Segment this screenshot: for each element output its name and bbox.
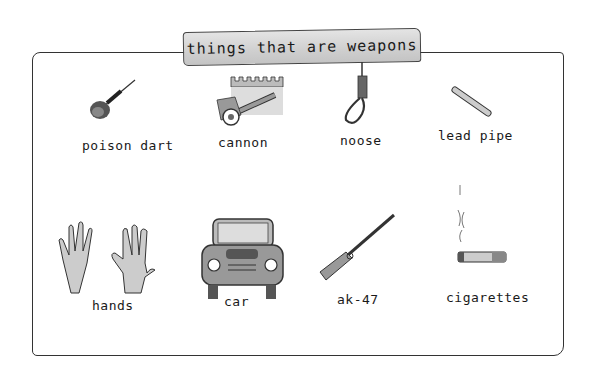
- car-icon: [200, 215, 285, 305]
- label-cannon: cannon: [218, 135, 268, 150]
- cigarette-icon: [450, 180, 512, 270]
- label-poison-dart: poison dart: [82, 138, 174, 153]
- title: things that are weapons: [187, 36, 418, 58]
- label-cigarettes: cigarettes: [446, 290, 529, 305]
- lead-pipe-icon: [450, 85, 495, 120]
- label-hands: hands: [92, 298, 134, 313]
- title-banner: things that are weapons: [183, 28, 422, 66]
- cannon-icon: [213, 75, 293, 130]
- hands-icon: [55, 215, 165, 300]
- label-ak-47: ak-47: [337, 292, 379, 307]
- label-noose: noose: [340, 133, 382, 148]
- rifle-icon: [318, 210, 400, 285]
- label-car: car: [224, 294, 249, 309]
- label-lead-pipe: lead pipe: [438, 128, 513, 143]
- poison-dart-icon: [85, 75, 145, 125]
- noose-icon: [340, 62, 390, 132]
